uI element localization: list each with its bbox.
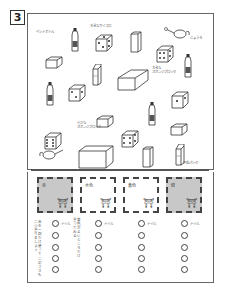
stamp-label: 赤 — [42, 182, 46, 188]
answer-circle[interactable] — [181, 244, 188, 251]
label-milk-carton: 牛乳パック — [183, 161, 198, 165]
answer-circle[interactable] — [95, 232, 102, 239]
answer-circle[interactable] — [52, 244, 59, 251]
stamp-label: 水色 — [85, 182, 93, 188]
stamp-red: 赤⛩ — [37, 177, 73, 213]
milk-carton-icon — [91, 64, 103, 86]
watering-can-icon — [37, 147, 65, 161]
answer-circle[interactable] — [95, 255, 102, 262]
dice-icon — [171, 91, 189, 109]
answer-circle[interactable] — [138, 232, 145, 239]
answer-circle[interactable] — [95, 266, 102, 273]
answer-circle[interactable] — [95, 244, 102, 251]
question-number: 3 — [10, 10, 25, 25]
label-big-dice: 大きなサイコロ — [90, 24, 111, 28]
objects-area — [27, 13, 214, 170]
stamp-label: 緑 — [171, 182, 175, 188]
big-block-icon — [78, 145, 114, 169]
torii-icon: ⛩ — [57, 199, 68, 208]
section-divider — [31, 169, 209, 171]
pet-bottle-icon — [70, 28, 80, 52]
tall-box-icon — [142, 146, 154, 168]
answer-circle[interactable] — [95, 220, 102, 227]
label-big-sponge-block: 大きな スポンジブロック — [152, 66, 176, 74]
label-pet-bottle: ペットボトル — [36, 30, 54, 34]
torii-icon: ⛩ — [143, 199, 154, 208]
big-dice-icon — [95, 34, 113, 52]
answer-circle[interactable] — [181, 266, 188, 273]
pet-bottle-icon — [45, 82, 55, 106]
answer-circle[interactable] — [181, 255, 188, 262]
stamp-label: 黄色 — [128, 182, 136, 188]
stamp-green: 緑⛩ — [166, 177, 202, 213]
circle-label: ナイル — [147, 221, 156, 226]
label-small-sponge-block: 小さな スポンジブロック — [77, 121, 101, 129]
answer-circle[interactable] — [52, 232, 59, 239]
answer-circle[interactable] — [52, 266, 59, 273]
instruction-note: 赤を一回だけ使って このマスも二つ塗りましょう — [33, 220, 41, 280]
circle-label: ナイル — [190, 221, 199, 226]
pet-bottle-icon — [147, 102, 157, 126]
small-block-icon — [45, 56, 63, 69]
small-block-icon — [170, 123, 188, 136]
tall-box-icon — [130, 31, 142, 53]
answer-circle[interactable] — [181, 220, 188, 227]
answer-circle[interactable] — [138, 266, 145, 273]
answer-circle[interactable] — [138, 220, 145, 227]
dice-icon — [68, 84, 86, 102]
pet-bottle-icon — [183, 54, 193, 78]
stamp-yellow: 黄色⛩ — [123, 177, 159, 213]
dice-icon — [156, 45, 174, 63]
big-sponge-block-icon — [117, 69, 149, 91]
answer-circle[interactable] — [52, 220, 59, 227]
label-watering-can: じょうろ — [190, 36, 202, 40]
torii-icon: ⛩ — [100, 199, 111, 208]
answer-circle[interactable] — [52, 255, 59, 262]
answer-circle[interactable] — [138, 255, 145, 262]
instruction-note: 黄色がよいところだけ 塗ってみる — [72, 218, 80, 258]
stamp-lightblue: 水色⛩ — [80, 177, 116, 213]
answer-circle[interactable] — [181, 232, 188, 239]
circle-label: ナイル — [61, 221, 70, 226]
torii-icon: ⛩ — [186, 199, 197, 208]
watering-can-icon — [164, 26, 192, 40]
answer-circle[interactable] — [138, 244, 145, 251]
dice-icon — [121, 130, 139, 148]
circle-label: ナイル — [104, 221, 113, 226]
